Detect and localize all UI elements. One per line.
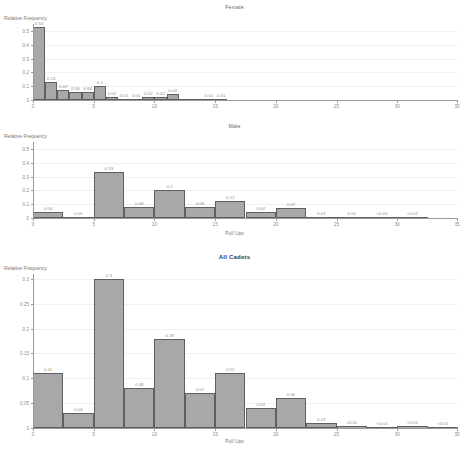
histogram-bar (33, 373, 63, 428)
x-axis-tick (457, 429, 458, 431)
histogram-bar (124, 388, 154, 428)
bar-value-label: 0.12 (226, 195, 235, 200)
x-axis-tick (276, 219, 277, 221)
y-axis-tick-label: 0.4 (9, 160, 29, 165)
histogram-bar (94, 86, 106, 100)
histogram-bar (69, 92, 81, 100)
bar-value-label: <0.01 (346, 420, 357, 425)
plot-area-all-cadets: 0.110.030.30.080.180.070.110.040.060.01<… (33, 274, 458, 428)
x-axis-tick (33, 429, 34, 431)
y-axis-tick-label: 0.3 (9, 174, 29, 179)
y-axis-tick-label: 0.1 (9, 376, 29, 381)
x-axis-tick (215, 429, 216, 431)
y-axis-tick-label: 0.2 (9, 70, 29, 75)
bar-value-label: <0.01 (377, 421, 388, 426)
x-axis-tick (33, 101, 34, 103)
bar-value-label: 0.04 (256, 402, 265, 407)
bar-value-label: 0.08 (196, 201, 205, 206)
y-axis-tick-label: 0 (9, 426, 29, 431)
x-axis-tick-label: 30 (395, 432, 400, 437)
y-axis-tick-label: 0.5 (9, 28, 29, 33)
y-axis-tick-label: 0.1 (9, 84, 29, 89)
y-axis-tick-label: 0.3 (9, 276, 29, 281)
y-axis-tick (31, 329, 33, 330)
y-axis-tick (31, 59, 33, 60)
y-axis-tick-label: 0.1 (9, 202, 29, 207)
x-axis-tick-label: 35 (454, 222, 459, 227)
y-axis-tick-label: 0.2 (9, 188, 29, 193)
y-axis-tick-label: 0.05 (9, 401, 29, 406)
bar-value-label: 0.01 (205, 93, 214, 98)
x-axis-tick-label: 5 (92, 432, 95, 437)
x-axis-tick-label: 15 (213, 222, 218, 227)
x-axis-tick (94, 101, 95, 103)
histogram-bar (215, 373, 245, 428)
y-axis-tick-label: 0.25 (9, 301, 29, 306)
x-axis-tick-label: 35 (454, 432, 459, 437)
x-axis-label-all-cadets: Pull Ups (0, 438, 469, 444)
y-axis-label-male: Relative Frequency (4, 133, 47, 139)
y-axis-tick-label: 0 (9, 216, 29, 221)
histogram-bar (94, 172, 124, 218)
x-axis-tick (154, 101, 155, 103)
x-axis-tick (397, 429, 398, 431)
x-axis-tick-label: 35 (454, 104, 459, 109)
y-axis-tick (31, 31, 33, 32)
x-axis-tick (457, 101, 458, 103)
x-axis-tick (337, 101, 338, 103)
chart-panel-all-cadets: All Cadets Relative Frequency 0.110.030.… (0, 252, 469, 463)
x-axis-tick (337, 429, 338, 431)
bar-value-label: 0.02 (108, 91, 117, 96)
y-axis-tick (31, 190, 33, 191)
x-axis-tick (154, 219, 155, 221)
y-axis-tick (31, 304, 33, 305)
y-axis-line (33, 142, 34, 218)
x-axis-tick-label: 25 (334, 104, 339, 109)
x-axis-tick (397, 101, 398, 103)
y-axis-label-all-cadets: Relative Frequency (4, 265, 47, 271)
y-axis-tick (31, 204, 33, 205)
y-axis-tick-label: 0.15 (9, 351, 29, 356)
bar-value-label: 0.53 (35, 21, 44, 26)
bar-value-label: 0.33 (105, 166, 114, 171)
x-axis-tick (215, 219, 216, 221)
x-axis-line (33, 428, 458, 429)
histogram-bar (57, 90, 69, 100)
x-axis-tick-label: 15 (213, 432, 218, 437)
chart-panel-male: Male Relative Frequency 0.040.010.330.08… (0, 122, 469, 244)
bar-value-label: 0.06 (83, 86, 92, 91)
x-axis-tick (276, 429, 277, 431)
y-axis-tick-label: 0.5 (9, 146, 29, 151)
bar-value-label: <0.01 (437, 421, 448, 426)
chart-title-all-cadets: All Cadets (0, 254, 469, 260)
histogram-bar (33, 27, 45, 100)
bar-value-label: 0.04 (168, 88, 177, 93)
x-axis-label-male: Pull Ups (0, 230, 469, 236)
bar-value-label: 0.06 (71, 86, 80, 91)
bar-value-label: 0.02 (144, 91, 153, 96)
plot-area-male: 0.040.010.330.080.20.080.120.040.070.010… (33, 142, 458, 218)
x-axis-tick (215, 101, 216, 103)
plot-area-female: 0.530.130.070.060.060.10.020.010.010.020… (33, 24, 458, 100)
x-axis-tick-label: 25 (334, 222, 339, 227)
x-axis-line (33, 100, 458, 101)
bar-value-label: 0.01 (317, 417, 326, 422)
chart-panel-female: Female Relative Frequency 0.530.130.070.… (0, 0, 469, 120)
histogram-bar (82, 92, 94, 100)
x-axis-tick (94, 219, 95, 221)
y-axis-tick-label: 0.3 (9, 56, 29, 61)
x-axis-tick-label: 10 (152, 432, 157, 437)
gridline (33, 72, 458, 73)
gridline (33, 31, 458, 32)
y-axis-tick (31, 378, 33, 379)
y-axis-line (33, 24, 34, 100)
histogram-bar (185, 393, 215, 428)
bar-value-label: 0.08 (135, 201, 144, 206)
y-axis-tick (31, 86, 33, 87)
x-axis-tick-label: 10 (152, 222, 157, 227)
histogram-bar (276, 398, 306, 428)
bar-value-label: 0.01 (132, 93, 141, 98)
histogram-bar (215, 201, 245, 218)
y-axis-tick-label: 0.2 (9, 326, 29, 331)
bar-value-label: 0.11 (226, 367, 234, 372)
